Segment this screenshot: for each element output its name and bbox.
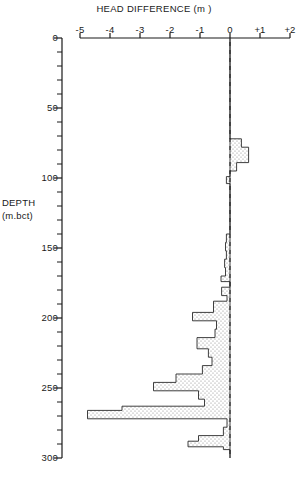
data-series-head-difference [88, 38, 249, 458]
plot-area [0, 0, 308, 498]
head-difference-depth-profile-chart: HEAD DIFFERENCE (m ) DEPTH (m.bct) -5-4-… [0, 0, 308, 498]
axes [54, 33, 290, 458]
